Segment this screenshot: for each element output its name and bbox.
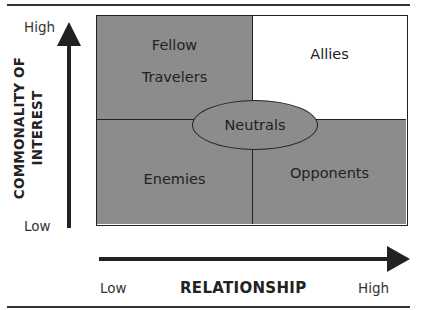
y-axis-title-line1: COMMONALITY OF: [10, 40, 28, 216]
x-axis-arrowhead-icon: [387, 246, 410, 272]
y-axis-high-label: High: [24, 19, 55, 35]
neutrals-label: Neutrals: [224, 117, 285, 133]
quadrant-enemies-label: Enemies: [144, 170, 206, 189]
quadrant-fellow-travelers-line1: Fellow: [142, 36, 208, 55]
quadrant-opponents-label: Opponents: [290, 164, 369, 183]
quadrant-allies-label: Allies: [310, 45, 348, 64]
y-axis-title-line2: INTEREST: [28, 40, 46, 216]
y-axis-title: COMMONALITY OF INTEREST: [10, 40, 50, 216]
x-axis-low-label: Low: [100, 280, 127, 296]
y-axis-line: [67, 40, 71, 228]
x-axis-title: RELATIONSHIP: [180, 279, 306, 297]
neutrals-ellipse: Neutrals: [192, 100, 318, 150]
x-axis-high-label: High: [358, 280, 389, 296]
top-rule: [7, 4, 410, 6]
y-axis-low-label: Low: [24, 218, 51, 234]
x-axis-line: [99, 257, 389, 261]
bottom-rule: [7, 306, 410, 308]
quadrant-fellow-travelers-line2: Travelers: [142, 68, 208, 87]
